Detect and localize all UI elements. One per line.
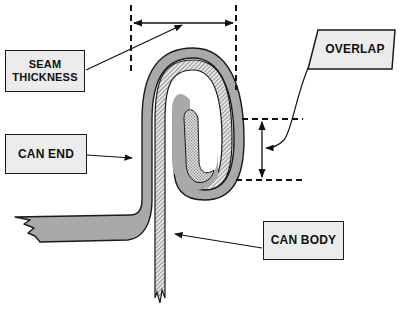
overlap-leader: [266, 68, 308, 148]
can-end-label: CAN END: [5, 134, 87, 174]
can-end-leader: [86, 155, 132, 158]
seam-thickness-label: SEAM THICKNESS: [5, 50, 85, 92]
can-body-label: CAN BODY: [263, 221, 344, 260]
can-end-label-text: CAN END: [18, 148, 74, 161]
can-body-label-text: CAN BODY: [271, 234, 337, 247]
overlap-label: OVERLAP: [318, 31, 392, 68]
can-body-leader: [175, 234, 262, 248]
sealing-compound: [184, 110, 214, 183]
overlap-dimension: [236, 119, 303, 180]
seam-thickness-label-line2: THICKNESS: [12, 71, 77, 84]
seam-thickness-label-line1: SEAM: [12, 58, 77, 71]
overlap-label-text: OVERLAP: [325, 43, 384, 56]
